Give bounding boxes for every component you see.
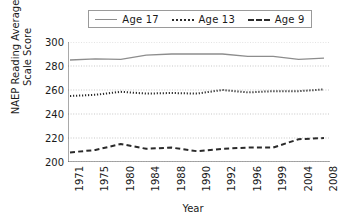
x-axis-tick-label: 1971: [74, 166, 85, 191]
x-axis-tick-label: 1988: [176, 166, 187, 191]
x-axis-tick-label: 2004: [303, 166, 314, 191]
legend-label-age-13: Age 13: [199, 14, 235, 25]
chart-legend: Age 17 Age 13 Age 9: [88, 10, 312, 28]
x-axis-tick-label: 1975: [99, 166, 110, 191]
legend-swatch-solid-icon: [95, 16, 117, 23]
y-axis-tick-label: 240: [38, 109, 64, 120]
x-axis-tick-label: 1984: [150, 166, 161, 191]
y-axis-tick-label: 200: [38, 157, 64, 168]
series-line-age-13: [70, 89, 324, 96]
x-axis-tick-label: 1996: [252, 166, 263, 191]
x-axis-tick-label: 1999: [277, 166, 288, 191]
x-axis-tick-label: 1980: [125, 166, 136, 191]
y-axis-tick-label: 260: [38, 85, 64, 96]
y-axis-title-line-2: Scale Score: [22, 0, 34, 114]
legend-item-age-17: Age 17: [95, 14, 158, 25]
series-line-age-17: [70, 54, 324, 60]
x-axis-title-text: Year: [142, 203, 203, 214]
x-axis-tick-label: 1992: [226, 166, 237, 191]
legend-swatch-dashed-icon: [248, 16, 270, 23]
series-line-age-9: [70, 138, 324, 152]
y-axis-tick-label: 300: [38, 37, 64, 48]
x-axis-title: Year: [0, 203, 346, 214]
y-axis-tick-label: 220: [38, 133, 64, 144]
chart-svg: [68, 42, 330, 162]
y-axis-title: NAEP Reading Average Scale Score: [7, 0, 37, 119]
y-axis-title-line-1: NAEP Reading Average: [10, 0, 22, 114]
x-axis-tick-label: 1990: [201, 166, 212, 191]
x-axis-tick-labels: 1971197519801984198819901992199619992004…: [68, 166, 330, 200]
chart-page: Age 17 Age 13 Age 9 NAEP Reading Average…: [0, 0, 346, 222]
legend-swatch-dotted-icon: [172, 16, 194, 23]
x-axis-tick-label: 2008: [328, 166, 339, 191]
y-axis-tick-labels: 200220240260280300: [36, 42, 64, 162]
legend-label-age-9: Age 9: [275, 14, 305, 25]
legend-item-age-9: Age 9: [248, 14, 305, 25]
legend-item-age-13: Age 13: [172, 14, 235, 25]
y-axis-tick-label: 280: [38, 61, 64, 72]
plot-area: [68, 42, 330, 162]
legend-label-age-17: Age 17: [122, 14, 158, 25]
